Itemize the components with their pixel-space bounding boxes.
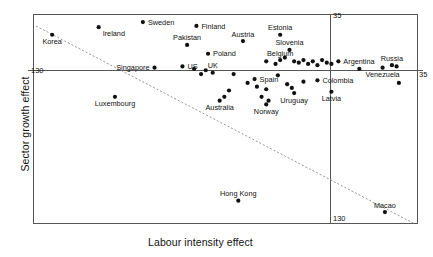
y-axis-title: Sector growth effect xyxy=(19,54,31,194)
data-point-labelled xyxy=(97,25,101,29)
data-point xyxy=(255,85,259,89)
point-label: Australia xyxy=(205,103,234,112)
data-point xyxy=(290,86,294,90)
point-label: Russia xyxy=(381,54,404,63)
data-point xyxy=(285,82,289,86)
tick-label-x-top: 35 xyxy=(333,11,341,20)
data-point xyxy=(325,61,329,65)
point-label: Spain xyxy=(260,75,279,84)
x-axis-title: Labour intensity effect xyxy=(148,236,253,248)
data-point-labelled xyxy=(390,63,394,67)
data-point xyxy=(227,88,231,92)
data-point-labelled xyxy=(218,99,222,103)
point-label: Hong Kong xyxy=(220,189,257,198)
data-point-labelled xyxy=(185,43,189,47)
point-label: Macao xyxy=(374,201,396,210)
data-point-labelled xyxy=(329,90,333,94)
data-point xyxy=(292,59,296,63)
point-label: Latvia xyxy=(322,94,342,103)
data-point-labelled xyxy=(241,39,245,43)
data-point xyxy=(264,87,268,91)
point-label: US xyxy=(187,62,197,71)
data-point xyxy=(266,99,270,103)
point-label: Estonia xyxy=(268,23,293,32)
data-point-labelled xyxy=(211,71,215,75)
point-label: Austria xyxy=(232,30,256,39)
scatter-chart: 130 35 35 130 KoreaIrelandSwedenFinlandP… xyxy=(0,0,433,257)
data-point xyxy=(297,61,301,65)
data-point-labelled xyxy=(264,102,268,106)
data-point xyxy=(232,72,236,76)
point-label: Ireland xyxy=(103,29,125,38)
data-point-labelled xyxy=(315,78,319,82)
tick-label-y-right: 35 xyxy=(419,70,427,79)
point-label: Singapore xyxy=(116,63,149,72)
data-point-labelled xyxy=(383,210,387,214)
data-point xyxy=(301,58,305,62)
data-point-labelled xyxy=(50,33,54,37)
data-point xyxy=(357,67,361,71)
data-point xyxy=(199,72,203,76)
data-point xyxy=(306,62,310,66)
data-point-labelled xyxy=(206,52,210,56)
data-point-labelled xyxy=(194,24,198,28)
data-point-labelled xyxy=(252,77,256,81)
data-point-labelled xyxy=(278,58,282,62)
data-point xyxy=(394,64,398,68)
data-point xyxy=(301,80,305,84)
data-point xyxy=(246,81,250,85)
point-label: Poland xyxy=(213,49,236,58)
tick-label-x-bottom: 130 xyxy=(333,214,346,223)
point-label: Belgium xyxy=(267,49,293,58)
point-label: Colombia xyxy=(322,76,354,85)
data-point xyxy=(320,58,324,62)
data-point xyxy=(315,63,319,67)
point-label: Finland xyxy=(201,22,225,31)
point-label: Uruguay xyxy=(280,96,308,105)
point-label: Luxembourg xyxy=(95,99,136,108)
data-point-labelled xyxy=(152,66,156,70)
data-point-labelled xyxy=(180,64,184,68)
point-label: Norway xyxy=(254,107,279,116)
point-label: Venezuela xyxy=(366,70,401,79)
data-point xyxy=(264,59,268,63)
plot-canvas: 130 35 35 130 KoreaIrelandSwedenFinlandP… xyxy=(0,0,433,257)
data-point xyxy=(329,62,333,66)
point-label: UK xyxy=(208,61,218,70)
point-label: Sweden xyxy=(148,18,174,27)
data-point-labelled xyxy=(141,20,145,24)
data-point xyxy=(397,81,401,85)
data-point xyxy=(273,62,277,66)
data-point-labelled xyxy=(336,59,340,63)
data-point-labelled xyxy=(292,91,296,95)
data-point-labelled xyxy=(113,95,117,99)
data-point-labelled xyxy=(236,199,240,203)
tick-label-y-upper: 130 xyxy=(31,66,44,75)
data-point-labelled xyxy=(380,66,384,70)
point-label: Korea xyxy=(42,37,62,46)
data-point xyxy=(311,59,315,63)
data-labels-layer: KoreaIrelandSwedenFinlandPakistanPolandE… xyxy=(42,18,404,210)
point-label: Pakistan xyxy=(173,33,201,42)
data-point-labelled xyxy=(278,33,282,37)
point-label: Slovenia xyxy=(276,38,305,47)
data-point xyxy=(222,95,226,99)
data-point xyxy=(259,95,263,99)
point-label: Argentina xyxy=(343,57,375,66)
